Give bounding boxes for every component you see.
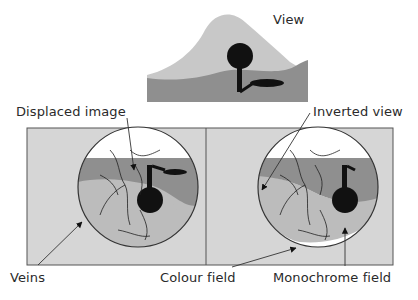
retina-diagram xyxy=(0,0,418,300)
right-eye-view xyxy=(258,127,378,247)
label-veins: Veins xyxy=(10,270,45,285)
label-inverted-view: Inverted view xyxy=(313,104,403,119)
label-displaced-image: Displaced image xyxy=(16,104,126,119)
label-view: View xyxy=(273,12,304,27)
label-monochrome-field: Monochrome field xyxy=(273,270,391,285)
label-colour-field: Colour field xyxy=(160,270,236,285)
